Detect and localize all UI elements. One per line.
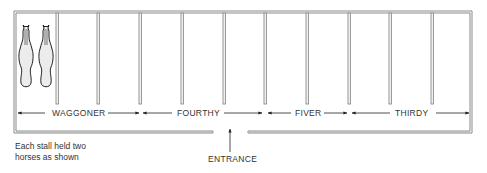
entrance-label: ENTRANCE [208,155,257,164]
stall-dividers [56,13,433,104]
stall-note-line-2: horses as shown [15,152,86,163]
horse-icon [39,25,53,87]
section-label-thirdy: THIRDY [395,109,428,118]
stall-note-line-1: Each stall held two [15,141,86,152]
horse-icon [19,25,33,87]
bottom-wall-shading [16,132,470,133]
stall-note: Each stall held two horses as shown [15,141,86,163]
section-label-fourthy: FOURTHY [177,109,220,118]
section-label-fiver: FIVER [295,109,322,118]
section-label-waggoner: WAGGONER [52,109,106,118]
